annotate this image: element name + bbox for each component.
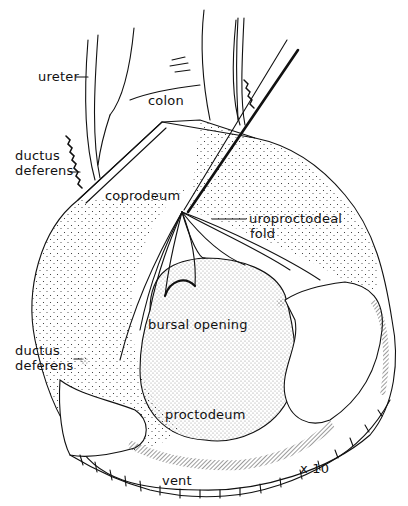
label-uroproctodeal-fold-1: uroproctodeal [249, 212, 342, 226]
label-vent: vent [162, 474, 192, 488]
ductus-deferens-top [66, 136, 82, 188]
label-ductus-deferens-top-1: ductus [15, 149, 60, 163]
label-colon: colon [148, 94, 184, 108]
label-uroproctodeal-fold-2: fold [250, 227, 275, 241]
ureter-left [86, 28, 134, 180]
label-ureter: ureter [38, 70, 79, 84]
right-lobe [284, 282, 382, 423]
label-ductus-deferens-bottom-2: deferens [15, 359, 74, 373]
label-ductus-deferens-bottom-1: ductus [15, 344, 60, 358]
label-proctodeum: proctodeum [165, 408, 246, 422]
label-coprodeum: coprodeum [105, 189, 180, 203]
label-bursal-opening: bursal opening [148, 318, 248, 332]
label-ductus-deferens-top-2: deferens [15, 164, 74, 178]
label-magnification: x 10 [300, 462, 329, 476]
